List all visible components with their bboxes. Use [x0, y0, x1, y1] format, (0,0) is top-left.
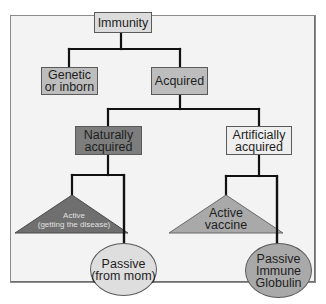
node-acquired: Acquired: [151, 67, 208, 95]
node-genetic: Genetic or inborn: [41, 67, 98, 95]
node-naturally-acquired: Naturally acquired: [75, 126, 142, 155]
node-genetic-label: Genetic or inborn: [45, 69, 94, 93]
node-passive-from-mom-label: Passive (from mom): [91, 258, 156, 282]
node-passive-immune-globulin-label: Passive Immune Globulin: [256, 253, 302, 289]
node-artificially-acquired: Artificially acquired: [226, 126, 292, 155]
node-immunity: Immunity: [94, 12, 152, 33]
node-acquired-label: Acquired: [155, 75, 204, 87]
node-naturally-acquired-label: Naturally acquired: [84, 129, 133, 153]
node-passive-immune-globulin: Passive Immune Globulin: [245, 243, 312, 298]
node-immunity-label: Immunity: [98, 17, 149, 29]
active-disease-label: Active (getting the disease): [24, 211, 124, 229]
node-passive-from-mom: Passive (from mom): [90, 243, 157, 296]
node-artificially-acquired-label: Artificially acquired: [233, 129, 286, 153]
active-vaccine-label: Active vaccine: [186, 207, 266, 231]
